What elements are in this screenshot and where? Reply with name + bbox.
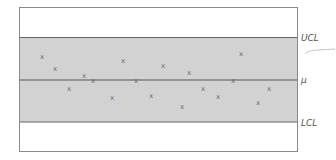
data-point-marker: x — [91, 77, 95, 85]
data-point-marker: x — [40, 53, 44, 61]
data-point-marker: x — [82, 72, 86, 80]
data-point-marker: x — [53, 65, 57, 73]
data-point-marker: x — [239, 50, 243, 58]
data-point-marker: x — [161, 62, 165, 70]
data-point-marker: x — [180, 103, 184, 111]
data-point-marker: x — [231, 77, 235, 85]
control-chart: xxxxxxxxxxxxxxxxxx UCL μ LCL — [0, 0, 336, 160]
pencil-annotation-stroke — [305, 49, 335, 54]
data-point-marker: x — [216, 93, 220, 101]
data-point-marker: x — [134, 77, 138, 85]
data-point-marker: x — [67, 85, 71, 93]
data-point-marker: x — [201, 85, 205, 93]
data-point-marker: x — [110, 94, 114, 102]
data-point-marker: x — [256, 99, 260, 107]
lcl-label: LCL — [301, 118, 317, 128]
data-point-marker: x — [149, 92, 153, 100]
data-point-marker: x — [267, 85, 271, 93]
data-point-marker: x — [121, 57, 125, 65]
ucl-label: UCL — [301, 33, 319, 43]
control-chart-svg: xxxxxxxxxxxxxxxxxx UCL μ LCL — [0, 0, 336, 160]
data-point-marker: x — [187, 69, 191, 77]
center-label: μ — [300, 75, 307, 85]
